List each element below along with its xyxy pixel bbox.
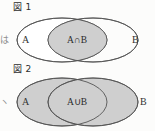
left-margin-fragment-2: ヽ (0, 95, 9, 108)
figure-2-label-a: A (22, 96, 30, 107)
left-margin-fragment-1: は (0, 33, 9, 46)
figure-2-label-b: B (140, 96, 147, 107)
figure-1-label-b: B (132, 34, 139, 45)
figure-2-venn-diagram: A B A∪B (0, 62, 155, 131)
figure-1-venn-diagram: A B A∩B (0, 0, 155, 66)
figure-1-region-label: A∩B (67, 35, 87, 45)
figure-1-label-a: A (22, 34, 30, 45)
figure-2: 図 2 A B A∪B (0, 62, 155, 131)
figure-2-region-label: A∪B (67, 97, 87, 107)
figure-1: 図 1 A B A∩B (0, 0, 155, 66)
